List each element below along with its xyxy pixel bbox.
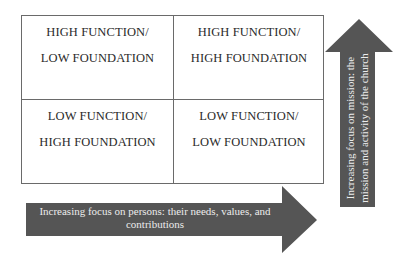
vertical-arrow-label-line2: mission and activity of the church [357, 53, 371, 203]
vertical-arrow-label-line1: Increasing focus on mission: the [343, 53, 357, 203]
horizontal-arrow-label-line1: Increasing focus on persons: their needs… [30, 205, 280, 218]
vertical-arrow-label: Increasing focus on mission: the mission… [343, 53, 371, 203]
horizontal-arrow-label-line2: contributions [30, 218, 280, 231]
horizontal-arrow-label: Increasing focus on persons: their needs… [30, 205, 280, 231]
